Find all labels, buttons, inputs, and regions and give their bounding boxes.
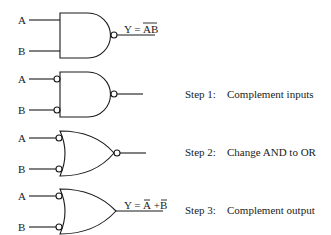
nand-output-equation: Y = AB	[124, 23, 158, 35]
step3-gate	[29, 189, 163, 234]
input-b-label: B	[18, 104, 25, 116]
input-a-label: A	[18, 132, 26, 144]
input-b-label: B	[18, 221, 25, 233]
input-a-label: A	[18, 73, 26, 85]
or-output-equation: Y = A + B	[124, 199, 167, 211]
equation-term: AB	[143, 23, 158, 35]
inversion-bubble	[111, 32, 117, 38]
equation-a: A	[143, 199, 151, 211]
step1-gate	[29, 72, 143, 117]
input-a-label: A	[18, 190, 26, 202]
nand-gate	[29, 13, 155, 58]
step2-gate	[29, 131, 146, 176]
input-a-label: A	[18, 14, 26, 26]
step-1: Step 1:Complement inputs	[185, 88, 313, 100]
logic-diagram: A B A B A B A B Y = AB Y = A + B	[0, 0, 331, 235]
input-b-label: B	[18, 163, 25, 175]
step-number: Step 1:	[185, 88, 227, 100]
step-text: Complement output	[227, 204, 315, 216]
equation-prefix: Y =	[124, 23, 141, 35]
step-3: Step 3:Complement output	[185, 204, 315, 216]
step-2: Step 2:Change AND to OR	[185, 146, 316, 158]
step-text: Complement inputs	[227, 88, 313, 100]
step-number: Step 2:	[185, 146, 227, 158]
step-text: Change AND to OR	[227, 146, 316, 158]
step-number: Step 3:	[185, 204, 227, 216]
input-b-label: B	[18, 45, 25, 57]
equation-prefix: Y =	[124, 199, 141, 211]
equation-b: B	[160, 199, 167, 211]
